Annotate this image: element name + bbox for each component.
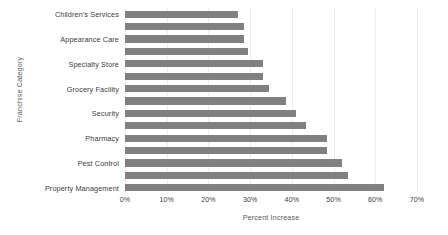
bar-row xyxy=(125,20,244,32)
x-axis-title: Percent Increase xyxy=(125,213,417,222)
bar xyxy=(125,172,348,179)
bar xyxy=(125,122,306,129)
bar xyxy=(125,60,263,67)
bar-row xyxy=(125,45,248,57)
x-axis-tick-label: 40% xyxy=(285,196,300,204)
x-axis-tick-label: 20% xyxy=(201,196,216,204)
bar xyxy=(125,11,238,18)
bar xyxy=(125,147,327,154)
bar-row xyxy=(125,120,306,132)
x-axis-tick-label: 60% xyxy=(368,196,383,204)
x-axis-tick-label: 10% xyxy=(159,196,174,204)
bar-row xyxy=(125,8,238,20)
x-axis-tick-label: 50% xyxy=(326,196,341,204)
y-axis-label: Appearance Care xyxy=(0,35,119,44)
y-axis-label: Pest Control xyxy=(0,159,119,168)
bar xyxy=(125,73,263,80)
y-axis-label: Pharmacy xyxy=(0,134,119,143)
bar-row xyxy=(125,157,342,169)
plot-area xyxy=(125,8,417,194)
y-axis-label: Specialty Store xyxy=(0,59,119,68)
bar xyxy=(125,85,269,92)
bar xyxy=(125,23,244,30)
bar xyxy=(125,184,384,191)
bar-row xyxy=(125,82,269,94)
bar-series xyxy=(125,8,417,194)
y-axis-label: Property Management xyxy=(0,183,119,192)
bar xyxy=(125,110,296,117)
gridline-70 xyxy=(417,8,418,194)
bar-chart: Franchise Category Children's ServicesAp… xyxy=(0,0,448,235)
bar-row xyxy=(125,144,327,156)
bar xyxy=(125,48,248,55)
y-axis-category-labels: Children's ServicesAppearance CareSpecia… xyxy=(0,8,119,194)
x-axis-tick-label: 30% xyxy=(243,196,258,204)
x-axis-tick-labels: 0%10%20%30%40%50%60%70% xyxy=(125,196,417,208)
y-axis-label: Security xyxy=(0,109,119,118)
y-axis-label: Grocery Facility xyxy=(0,84,119,93)
bar-row xyxy=(125,107,296,119)
bar xyxy=(125,135,327,142)
bar-row xyxy=(125,95,286,107)
bar-row xyxy=(125,33,244,45)
bar-row xyxy=(125,58,263,70)
bar xyxy=(125,97,286,104)
x-axis-tick-label: 0% xyxy=(120,196,130,204)
bar-row xyxy=(125,169,348,181)
bar-row xyxy=(125,132,327,144)
bar-row xyxy=(125,70,263,82)
x-axis-tick-label: 70% xyxy=(410,196,425,204)
bar-row xyxy=(125,182,384,194)
bar xyxy=(125,159,342,166)
bar xyxy=(125,35,244,42)
y-axis-label: Children's Services xyxy=(0,10,119,19)
